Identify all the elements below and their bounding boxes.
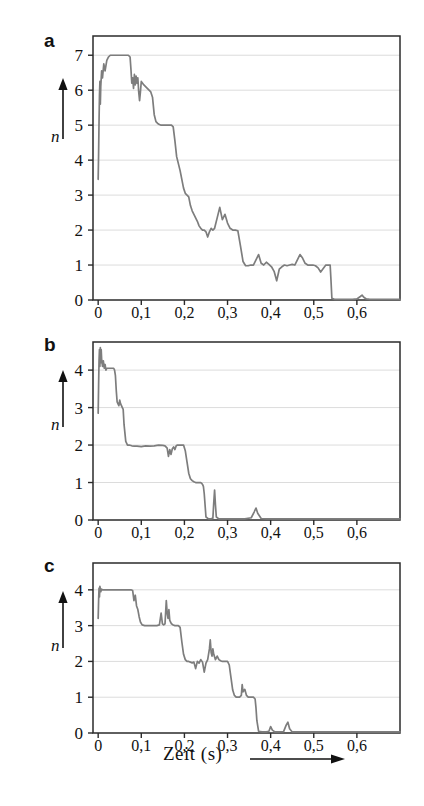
y-tick-label: 3 [75, 399, 84, 418]
x-tick-label: 0 [94, 524, 102, 541]
x-tick-label: 0,5 [304, 524, 324, 541]
plot-area-b: 0123400,10,20,30,40,50,6 [0, 320, 424, 545]
x-tick-label: 0,6 [347, 304, 367, 320]
x-tick-label: 0,1 [131, 737, 151, 754]
x-tick-label: 0,2 [174, 524, 194, 541]
data-curve [98, 348, 400, 519]
y-tick-label: 4 [75, 361, 84, 380]
y-tick-label: 5 [75, 116, 84, 135]
x-tick-label: 0,6 [347, 524, 367, 541]
x-tick-label: 0,2 [174, 304, 194, 320]
y-tick-label: 3 [75, 617, 84, 636]
y-tick-label: 0 [75, 511, 84, 530]
x-axis-arrow [250, 752, 346, 766]
x-tick-label: 0,5 [304, 304, 324, 320]
x-tick-label: 0,3 [218, 304, 238, 320]
y-tick-label: 0 [75, 291, 84, 310]
x-tick-label: 0,1 [131, 524, 151, 541]
y-tick-label: 6 [75, 81, 84, 100]
plot-area-c: 0123400,10,20,30,40,50,6 [0, 545, 424, 806]
y-tick-label: 3 [75, 186, 84, 205]
x-tick-label: 0,1 [131, 304, 151, 320]
y-tick-label: 0 [75, 724, 84, 743]
y-tick-label: 2 [75, 221, 84, 240]
panel-c: c n 0123400,10,20,30,40,50,6 Zeit (s) [0, 545, 424, 806]
x-tick-label: 0,6 [347, 737, 367, 754]
x-tick-label: 0,4 [261, 304, 281, 320]
plot-area-a: 0123456700,10,20,30,40,50,6 [0, 0, 424, 320]
figure-container: a n 0123456700,10,20,30,40,50,6 b n 0123… [0, 0, 424, 806]
panel-b: b n 0123400,10,20,30,40,50,6 [0, 320, 424, 545]
x-tick-label: 0 [94, 737, 102, 754]
x-tick-label: 0,3 [218, 524, 238, 541]
y-tick-label: 4 [75, 581, 84, 600]
panel-a: a n 0123456700,10,20,30,40,50,6 [0, 0, 424, 320]
y-tick-label: 1 [75, 256, 84, 275]
y-tick-label: 1 [75, 688, 84, 707]
y-tick-label: 7 [75, 46, 84, 65]
x-tick-label: 0,4 [261, 524, 281, 541]
x-tick-label: 0 [94, 304, 102, 320]
data-curve [98, 55, 400, 299]
x-axis-label: Zeit (s) [163, 743, 222, 765]
y-tick-label: 1 [75, 474, 84, 493]
y-tick-label: 4 [75, 151, 84, 170]
y-tick-label: 2 [75, 652, 84, 671]
data-curve [98, 586, 400, 732]
y-tick-label: 2 [75, 436, 84, 455]
